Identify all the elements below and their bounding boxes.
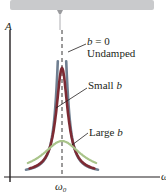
curve-small-b [30, 68, 95, 168]
support-bar [10, 0, 154, 10]
x-axis-label: ω [161, 170, 166, 182]
leader-small-b [56, 88, 87, 108]
label-undamped: Undamped [87, 47, 136, 59]
x-tick-label-omega0: ω0 [55, 180, 67, 194]
label-large-b: Large b [89, 126, 123, 138]
leader-large-b [72, 133, 88, 145]
leader-undamped [68, 44, 86, 52]
label-b-zero: b = 0 [87, 35, 110, 47]
support-connector [57, 10, 63, 14]
resonance-figure: A ω ω0 b = 0 Undamped Small b Large b [0, 0, 166, 195]
label-small-b: Small b [88, 79, 122, 91]
y-axis-label: A [4, 20, 12, 32]
